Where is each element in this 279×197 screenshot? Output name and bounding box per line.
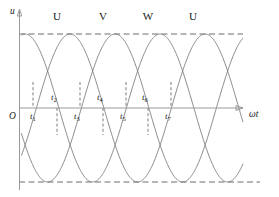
x-axis-label: ωt — [249, 109, 259, 119]
phase-label-3: U — [189, 10, 197, 22]
figure-labels: u ωt O — [9, 6, 259, 121]
time-marker-label-t4: t4 — [97, 92, 104, 103]
time-marker-label-t2: t2 — [51, 92, 57, 103]
three-phase-waveform-figure: u ωt O UVWU t1t2t3t4t5t6t7 — [0, 0, 279, 197]
time-marker-label-t6: t6 — [142, 92, 149, 103]
time-marker-subscript: 1 — [33, 115, 36, 122]
time-marker-subscript: 6 — [145, 96, 149, 103]
phase-label-1: V — [99, 10, 107, 22]
time-marker-label-t3: t3 — [74, 111, 80, 122]
time-marker-subscript: 4 — [100, 96, 104, 103]
origin-label: O — [9, 111, 16, 121]
phase-label-0: U — [53, 10, 61, 22]
time-marker-subscript: 7 — [168, 115, 172, 122]
phase-peak-labels: UVWU — [53, 10, 197, 22]
waveform-svg: u ωt O UVWU t1t2t3t4t5t6t7 — [0, 0, 279, 197]
phase-label-2: W — [143, 10, 154, 22]
y-axis-label: u — [10, 6, 15, 16]
time-marker-labels: t1t2t3t4t5t6t7 — [30, 92, 172, 122]
time-marker-subscript: 3 — [77, 115, 80, 122]
time-marker-label-t7: t7 — [165, 111, 172, 122]
time-marker-subscript: 2 — [54, 96, 57, 103]
time-marker-subscript: 5 — [123, 115, 126, 122]
